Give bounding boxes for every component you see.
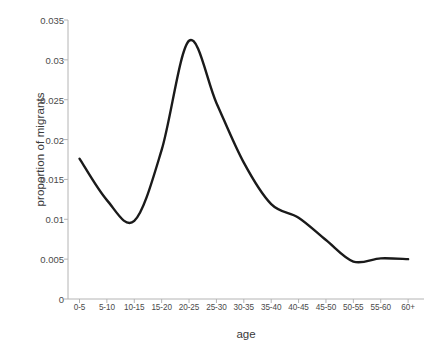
x-axis-tick-label: 30-35 <box>234 303 254 312</box>
x-axis-tick-label: 20-25 <box>179 303 199 312</box>
x-axis-tick-label: 45-50 <box>316 303 336 312</box>
y-axis-ticks <box>64 20 68 299</box>
x-axis-tick-label: 50-55 <box>343 303 363 312</box>
x-axis-tick-label: 10-15 <box>124 303 144 312</box>
data-series-line <box>80 40 409 263</box>
x-axis-tick-label: 60+ <box>401 303 415 312</box>
x-axis-tick-label: 55-60 <box>370 303 390 312</box>
x-axis-tick-label: 25-30 <box>206 303 226 312</box>
x-axis-tick-label: 40-45 <box>288 303 308 312</box>
x-axis-tick-label: 0-5 <box>74 303 86 312</box>
x-axis-tick-label: 35-40 <box>261 303 281 312</box>
x-axis-tick-label: 15-20 <box>151 303 171 312</box>
x-axis-title: age <box>68 328 424 340</box>
x-axis-tick-label: 5-10 <box>99 303 115 312</box>
migration-age-profile-chart: proportion of migrants 00.0050.010.0150.… <box>0 0 446 356</box>
